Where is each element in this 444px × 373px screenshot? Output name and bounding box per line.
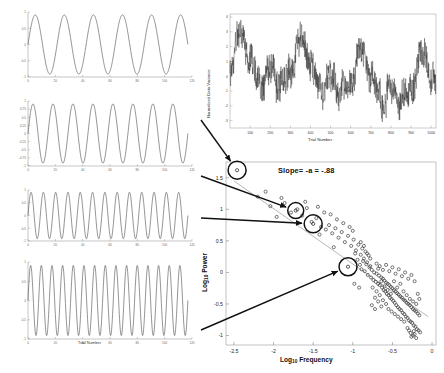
svg-text:-0.25: -0.25 — [19, 140, 26, 144]
svg-text:-1: -1 — [23, 164, 26, 168]
timeseries-panel: 43210-1-2-310020030040050060070080090010… — [204, 6, 442, 146]
svg-text:0.5: 0.5 — [22, 201, 27, 205]
svg-text:0: 0 — [431, 348, 434, 354]
timeseries-plot: 43210-1-2-310020030040050060070080090010… — [204, 6, 442, 146]
svg-text:-0.5: -0.5 — [21, 227, 27, 231]
svg-text:0.5: 0.5 — [22, 116, 27, 120]
svg-text:100: 100 — [162, 341, 167, 345]
svg-text:900: 900 — [408, 131, 414, 135]
svg-text:300: 300 — [287, 131, 293, 135]
svg-text:0: 0 — [27, 168, 29, 172]
svg-text:0: 0 — [24, 214, 26, 218]
svg-text:40: 40 — [81, 168, 85, 172]
svg-text:100: 100 — [162, 243, 167, 247]
svg-text:-2.5: -2.5 — [229, 348, 238, 354]
svg-text:-1: -1 — [23, 75, 26, 79]
svg-text:0: 0 — [226, 75, 228, 79]
svg-text:0: 0 — [27, 79, 29, 83]
svg-text:-1: -1 — [350, 348, 355, 354]
power-spectrum-figure: 10.50-0.5-1020406080100120 10.750.50.250… — [0, 0, 444, 373]
svg-text:-1: -1 — [218, 332, 223, 338]
svg-text:80: 80 — [136, 243, 140, 247]
svg-text:-2: -2 — [271, 348, 276, 354]
svg-text:600: 600 — [348, 131, 354, 135]
spectrum-ylabel-sub: 10 — [204, 275, 209, 280]
svg-text:500: 500 — [328, 131, 334, 135]
svg-text:0: 0 — [220, 269, 223, 275]
spectrum-xlabel: Log10 Frequency — [280, 356, 333, 364]
timeseries-ylabel: Normalized Data Variance — [206, 69, 211, 118]
svg-text:0.25: 0.25 — [20, 124, 26, 128]
svg-text:40: 40 — [81, 243, 85, 247]
svg-text:1: 1 — [24, 99, 26, 103]
svg-text:20: 20 — [54, 79, 58, 83]
svg-text:-0.5: -0.5 — [21, 318, 27, 322]
svg-text:60: 60 — [108, 341, 112, 345]
svg-text:20: 20 — [54, 243, 58, 247]
svg-text:1: 1 — [226, 60, 228, 64]
slope-annotation: Slope= -a = -.88 — [278, 166, 335, 175]
signal-panel-2: 10.750.50.250-0.25-0.5-0.75-102040608010… — [6, 97, 200, 177]
svg-text:80: 80 — [136, 79, 140, 83]
svg-text:-2: -2 — [225, 104, 228, 108]
svg-text:0: 0 — [24, 132, 26, 136]
spectrum-ylabel: Log10 Power — [201, 253, 209, 292]
svg-text:800: 800 — [388, 131, 394, 135]
timeseries-xlabel: Trial Number — [308, 137, 332, 142]
signal-panel-4: 10.50-0.5-1020406080100120 Trial Number — [6, 258, 200, 350]
svg-text:60: 60 — [108, 79, 112, 83]
svg-text:80: 80 — [136, 168, 140, 172]
svg-text:-1: -1 — [23, 239, 26, 243]
svg-text:-0.5: -0.5 — [21, 148, 27, 152]
svg-text:700: 700 — [368, 131, 374, 135]
spectrum-ylabel-base: Log — [201, 280, 208, 292]
svg-text:100: 100 — [162, 79, 167, 83]
svg-text:400: 400 — [308, 131, 314, 135]
spectrum-xlabel-base: Log — [280, 356, 292, 363]
svg-text:-1.5: -1.5 — [309, 348, 318, 354]
signal-panel-1-plot: 10.50-0.5-1020406080100120 — [6, 8, 200, 88]
signal-panel-3: 10.50-0.5-1020406080100120 — [6, 186, 200, 252]
svg-text:80: 80 — [136, 341, 140, 345]
svg-text:0.5: 0.5 — [22, 280, 27, 284]
svg-text:1.5: 1.5 — [216, 175, 223, 181]
spectrum-plot: -2.5-2-1.5-1-0.501.510.50-0.5-1 — [196, 152, 442, 371]
svg-text:0.5: 0.5 — [22, 27, 27, 31]
signal-panel-4-plot: 10.50-0.5-1020406080100120 — [6, 258, 200, 350]
svg-text:0: 0 — [27, 243, 29, 247]
svg-text:0: 0 — [24, 299, 26, 303]
svg-text:-0.5: -0.5 — [388, 348, 397, 354]
svg-text:1000: 1000 — [427, 131, 435, 135]
svg-text:1: 1 — [24, 260, 26, 264]
svg-text:-3: -3 — [225, 119, 228, 123]
svg-text:0: 0 — [24, 43, 26, 47]
svg-text:200: 200 — [267, 131, 273, 135]
spectrum-panel: -2.5-2-1.5-1-0.501.510.50-0.5-1 Slope= -… — [196, 152, 442, 371]
spectrum-xlabel-rest: Frequency — [297, 356, 332, 363]
signal-panel-2-plot: 10.750.50.250-0.25-0.5-0.75-102040608010… — [6, 97, 200, 177]
spectrum-ylabel-rest: Power — [201, 253, 208, 275]
svg-text:-0.75: -0.75 — [19, 156, 26, 160]
svg-text:0.5: 0.5 — [216, 238, 223, 244]
svg-text:4: 4 — [226, 15, 228, 19]
svg-text:120: 120 — [189, 243, 194, 247]
svg-text:20: 20 — [54, 168, 58, 172]
svg-text:20: 20 — [54, 341, 58, 345]
svg-text:0: 0 — [27, 341, 29, 345]
svg-text:100: 100 — [247, 131, 253, 135]
svg-text:-0.5: -0.5 — [214, 301, 223, 307]
svg-text:3: 3 — [226, 30, 228, 34]
signal-panel-1: 10.50-0.5-1020406080100120 — [6, 8, 200, 88]
svg-text:60: 60 — [108, 168, 112, 172]
svg-text:60: 60 — [108, 243, 112, 247]
svg-text:100: 100 — [162, 168, 167, 172]
svg-text:2: 2 — [226, 45, 228, 49]
svg-text:-0.5: -0.5 — [21, 59, 27, 63]
svg-text:1: 1 — [24, 10, 26, 14]
svg-text:40: 40 — [81, 79, 85, 83]
svg-text:120: 120 — [189, 341, 194, 345]
svg-text:0.75: 0.75 — [20, 107, 26, 111]
svg-text:120: 120 — [189, 79, 194, 83]
signal-panel-4-xlabel: Trial Number — [78, 340, 101, 345]
svg-text:1: 1 — [220, 206, 223, 212]
